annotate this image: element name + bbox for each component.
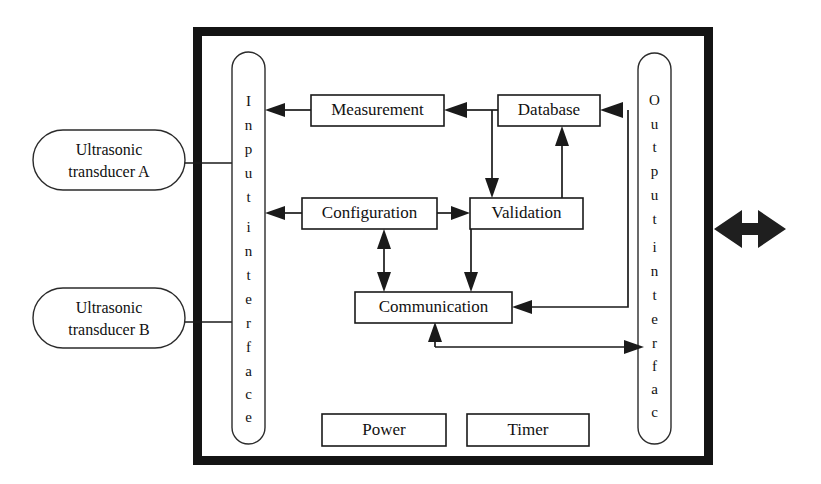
edge-configuration-to-validation (437, 206, 470, 220)
output-interface-char-13: c (651, 404, 658, 420)
power-label: Power (362, 420, 406, 439)
arrowhead-to-database-right (600, 102, 623, 118)
module-database[interactable]: Database (498, 95, 600, 126)
transducer-a-shape (33, 130, 185, 190)
input-interface-char-10: f (246, 339, 251, 355)
output-interface-char-7: n (651, 263, 659, 279)
transducer-b-shape (33, 288, 185, 348)
module-validation[interactable]: Validation (470, 198, 583, 229)
output-interface-char-3: p (651, 163, 659, 179)
output-interface-char-4: u (651, 187, 659, 203)
validation-label: Validation (492, 203, 562, 222)
configuration-label: Configuration (322, 203, 418, 222)
arrowhead-to-communication-top (464, 272, 478, 292)
bidirectional-link-icon (714, 210, 786, 248)
arrowhead-to-communication-bottom (428, 322, 442, 342)
arrowhead-to-communication-top-left (377, 272, 391, 292)
timer-label: Timer (508, 420, 549, 439)
output-interface[interactable]: O u t p u t i n t e r f a c (638, 53, 671, 444)
edge-validation-to-database (555, 126, 569, 198)
input-interface-char-1: n (245, 117, 253, 133)
module-communication[interactable]: Communication (355, 292, 512, 323)
input-interface[interactable]: I n p u t i n t e r f a c e (232, 52, 265, 444)
transducer-b-label-line1: Ultrasonic (76, 299, 143, 316)
output-interface-char-0: O (649, 92, 660, 108)
output-interface-char-9: e (651, 311, 658, 327)
module-timer[interactable]: Timer (467, 414, 589, 446)
edge-validation-to-communication (464, 228, 478, 292)
arrowhead-measurement-input (265, 103, 285, 117)
output-interface-char-10: r (652, 335, 657, 351)
measurement-label: Measurement (331, 100, 424, 119)
input-interface-char-0: I (246, 93, 251, 109)
input-interface-char-8: e (245, 291, 252, 307)
output-interface-char-6: i (652, 239, 656, 255)
arrowhead-to-configuration-bottom (377, 229, 391, 249)
edge-measurement-to-input (265, 103, 311, 117)
output-interface-char-1: u (651, 116, 659, 132)
block-diagram: Ultrasonic transducer A Ultrasonic trans… (0, 0, 821, 484)
input-interface-char-11: a (245, 363, 252, 379)
output-interface-char-11: f (652, 358, 657, 374)
arrowhead-to-validation-top (485, 178, 499, 198)
arrowhead-to-validation-left (451, 206, 470, 220)
input-interface-char-3: u (245, 165, 253, 181)
device-enclosure (198, 32, 709, 461)
output-interface-char-12: a (651, 381, 658, 397)
communication-label: Communication (379, 297, 489, 316)
input-interface-char-12: c (245, 386, 252, 402)
edge-communication-to-output (428, 322, 644, 354)
arrowhead-to-database (555, 126, 569, 146)
transducer-a-node[interactable]: Ultrasonic transducer A (33, 130, 185, 190)
edge-configuration-to-input (265, 206, 302, 220)
transducer-b-node[interactable]: Ultrasonic transducer B (33, 288, 185, 348)
transducer-b-label-line2: transducer B (68, 321, 149, 338)
input-interface-char-6: n (245, 243, 253, 259)
module-configuration[interactable]: Configuration (302, 198, 437, 229)
edge-database-to-validation-and-measurement (444, 102, 499, 198)
input-interface-char-9: r (246, 315, 251, 331)
transducer-a-label-line2: transducer A (68, 163, 150, 180)
module-measurement[interactable]: Measurement (311, 95, 444, 126)
arrowhead-to-communication-right (512, 300, 532, 314)
transducer-a-label-line1: Ultrasonic (76, 141, 143, 158)
edge-configuration-communication (377, 229, 391, 292)
module-power[interactable]: Power (322, 414, 446, 446)
input-interface-char-13: e (245, 409, 252, 425)
input-interface-char-5: i (246, 219, 250, 235)
diagram-canvas: Ultrasonic transducer A Ultrasonic trans… (0, 0, 821, 484)
arrowhead-to-measurement (444, 102, 467, 118)
arrowhead-configuration-input (265, 206, 285, 220)
input-interface-char-2: p (245, 141, 253, 157)
database-label: Database (518, 100, 580, 119)
